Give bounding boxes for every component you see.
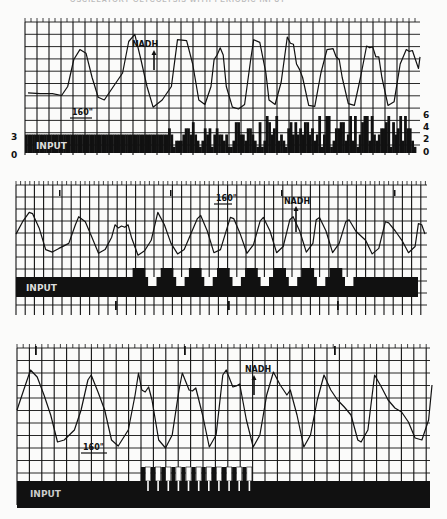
input-pulse-up [171,467,175,481]
input-pulse-gap [166,467,171,481]
time-scale-label: 160" [83,443,104,452]
input-bar [337,128,340,153]
input-bar [273,128,276,153]
input-bar [194,135,197,154]
event-marker [115,301,117,310]
input-bar [101,135,104,154]
input-bar [235,122,238,153]
input-bar [371,116,374,153]
input-bar [366,116,369,153]
input-pulse-gap [176,467,181,481]
input-bar [373,135,376,154]
input-bar [209,128,212,153]
input-bar [254,141,257,153]
input-bar [32,135,35,154]
input-pulse-up [202,467,206,481]
input-bar [278,141,281,153]
input-pulse-up [330,268,343,277]
input-bar [185,128,188,153]
input-bar [275,116,278,153]
input-bar [342,122,345,153]
event-marker [170,190,172,196]
input-bar [249,128,252,153]
input-bar [321,147,324,153]
panel-1: INPUT306420NADH160" [11,18,429,160]
input-bar [221,135,224,154]
input-bar [385,122,388,153]
event-marker [35,346,37,355]
input-bar [175,141,178,153]
input-pulse-gap [216,467,221,481]
input-bar [347,135,350,154]
input-bar [163,135,166,154]
input-band [17,481,430,508]
input-bar [340,122,343,153]
input-bar [77,135,80,154]
input-bar [82,135,85,154]
input-bar [166,135,169,154]
input-pulse-down [168,481,170,491]
input-bar [230,147,233,153]
input-bar [206,135,209,154]
input-bar [297,135,300,154]
input-bar [383,128,386,153]
input-pulse-gap [247,467,252,481]
input-bar [199,147,202,153]
input-pulse-up [161,467,165,481]
input-bar [240,135,243,154]
input-bar [142,135,145,154]
input-bar [356,147,359,153]
input-bar [128,135,131,154]
input-bar [318,116,321,153]
input-bar [251,135,254,154]
input-bar [104,135,107,154]
input-bar [397,128,400,153]
input-bar [402,141,405,153]
time-scale-label: 160" [72,108,93,117]
input-bar [120,135,123,154]
input-bar [304,122,307,153]
panel-2: INPUT160"NADH [16,181,427,315]
input-bar [344,141,347,153]
input-pulse-down [261,277,269,286]
input-label: INPUT [30,489,62,499]
input-pulse-up [301,268,314,277]
event-marker [337,301,339,310]
input-bar [132,135,135,154]
input-bar [187,128,190,153]
input-bar [223,141,226,153]
input-bar [232,141,235,153]
input-bar [204,128,207,153]
input-bar [201,141,204,153]
right-axis-tick: 2 [423,134,429,144]
input-bar [380,128,383,153]
input-bar [125,135,128,154]
input-bar [97,135,100,154]
input-pulse-gap [196,467,201,481]
input-bar [108,135,111,154]
input-pulse-down [233,277,241,286]
input-bar [294,122,297,153]
input-pulse-down [218,481,220,491]
input-bar [387,116,390,153]
input-pulse-up [232,467,236,481]
right-axis-tick: 4 [423,122,429,132]
input-bar [182,135,185,154]
input-pulse-gap [237,467,242,481]
input-bar [414,147,417,153]
input-pulse-up [192,467,196,481]
input-bar [325,116,328,153]
input-bar [316,135,319,154]
input-bar [299,128,302,153]
input-bar [111,135,114,154]
nadh-trace-line [16,212,425,255]
input-bar [116,135,119,154]
input-bar [87,135,90,154]
input-pulse-down [238,481,240,491]
event-marker [228,301,230,310]
input-bar [89,135,92,154]
input-bar [197,141,200,153]
input-pulse-gap [227,467,232,481]
input-pulse-up [222,467,226,481]
input-bar [259,122,262,153]
